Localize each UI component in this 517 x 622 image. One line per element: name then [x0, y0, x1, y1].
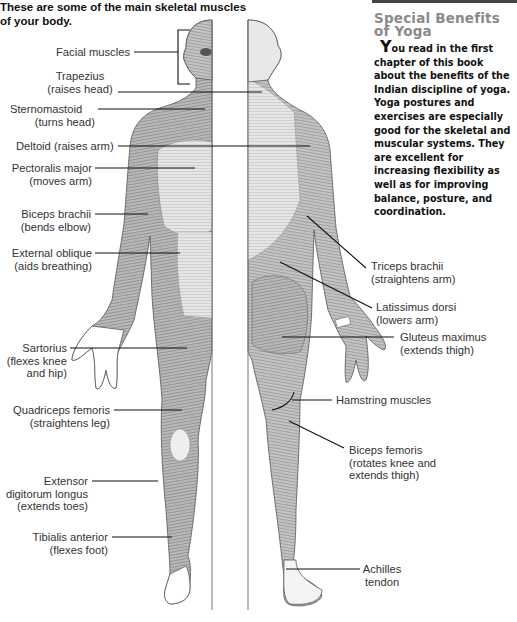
label-sternomastoid: Sternomastoid(turns head): [10, 103, 95, 128]
label-quadriceps-femoris: Quadriceps femoris(straightens leg): [4, 404, 110, 429]
label-pectoralis-major: Pectoralis major(moves arm): [4, 162, 92, 187]
label-extensor-digitorum-longus: Extensordigitorum longus(extends toes): [4, 475, 88, 513]
label-biceps-femoris: Biceps femoris(rotates knee andextends t…: [349, 444, 436, 482]
label-biceps-brachii: Biceps brachii(bends elbow): [4, 208, 91, 233]
label-gluteus-maximus: Gluteus maximus(extends thigh): [400, 331, 486, 356]
label-triceps-brachii: Triceps brachii(straightens arm): [371, 260, 456, 285]
label-trapezius: Trapezius(raises head): [40, 70, 120, 95]
label-achilles-tendon: Achillestendon: [360, 563, 404, 588]
label-latissimus-dorsi: Latissimus dorsi(lowers arm): [376, 301, 456, 326]
label-sartorius: Sartorius(flexes kneeand hip): [4, 342, 67, 380]
label-hamstring-muscles: Hamstring muscles: [336, 394, 431, 407]
label-facial-muscles: Facial muscles: [48, 46, 130, 59]
label-external-oblique: External oblique(aids breathing): [4, 247, 92, 272]
back-figure: [248, 20, 386, 610]
label-tibialis-anterior: Tibialis anterior(flexes foot): [4, 531, 108, 556]
label-deltoid: Deltoid (raises arm): [16, 140, 114, 153]
